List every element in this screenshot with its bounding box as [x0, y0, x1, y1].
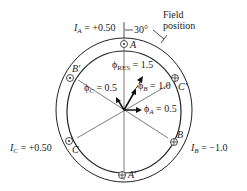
coil-c-prime-label: C′	[178, 82, 187, 92]
coil-b-label: B	[177, 130, 183, 140]
field-label-2: position	[163, 21, 195, 31]
coil-a-prime-label: A′	[128, 170, 136, 180]
coil-c-label: C	[72, 145, 79, 155]
phi-a-label: ϕA = 0.5	[144, 104, 177, 116]
field-label-1: Field	[163, 10, 184, 20]
phi-res-label: ϕRES = 1.5	[112, 60, 153, 72]
phi-b-label: ϕB = 1.0	[138, 81, 171, 93]
current-a-label: IA = +0.50	[74, 23, 115, 35]
angle-arrow	[153, 30, 164, 39]
stator-diagram	[0, 0, 247, 191]
coil-b-prime-label: B′	[72, 64, 80, 74]
coil-a-prime-cross-icon	[119, 172, 126, 179]
phi-c-label: ϕC = 0.5	[84, 83, 117, 95]
coil-b-prime-dot-icon	[67, 75, 74, 82]
coil-a-dot-icon	[121, 41, 128, 48]
current-b-label: IB = −1.0	[191, 143, 227, 155]
coil-a-label: A	[130, 40, 136, 50]
current-c-label: IC = +0.50	[10, 143, 52, 155]
angle-label: 30°	[134, 25, 148, 35]
